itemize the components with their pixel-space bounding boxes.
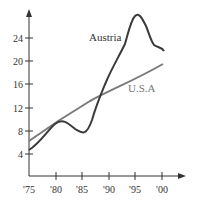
series-label-austria: Austria <box>89 31 122 43</box>
x-tick-label: '85 <box>76 184 88 195</box>
y-tick-labels: 24 20 16 12 8 4 <box>13 33 23 160</box>
x-tick-label: '75 <box>23 184 35 195</box>
x-tick-label: '00 <box>156 184 168 195</box>
line-chart: 24 20 16 12 8 4 '75 '80 '85 '90 '95 '00 … <box>0 0 198 202</box>
x-axis-arrow-icon <box>178 173 186 179</box>
y-axis-arrow-icon <box>26 9 32 17</box>
y-tick-label: 24 <box>13 33 23 44</box>
y-tick-label: 16 <box>13 79 23 90</box>
y-tick-label: 12 <box>13 103 23 114</box>
x-tick-label: '90 <box>103 184 115 195</box>
y-tick-label: 20 <box>13 56 23 67</box>
x-tick-label: '80 <box>50 184 62 195</box>
y-tick-label: 8 <box>18 126 23 137</box>
x-tick-label: '95 <box>129 184 141 195</box>
series-label-usa: U.S.A <box>128 82 156 94</box>
x-tick-labels: '75 '80 '85 '90 '95 '00 <box>23 184 168 195</box>
y-tick-label: 4 <box>18 149 23 160</box>
